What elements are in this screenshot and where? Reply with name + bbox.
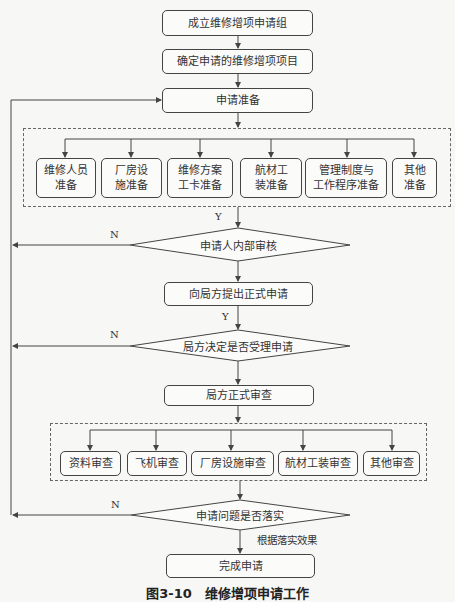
yes-label: Y xyxy=(222,311,229,322)
prep-item-management-procedures: 管理制度与 工作程序准备 xyxy=(305,158,387,198)
step-label: 局方正式审查 xyxy=(206,388,272,403)
step-label: 完成申请 xyxy=(219,559,263,574)
review-item-other: 其他审查 xyxy=(363,451,420,476)
no-label: N xyxy=(110,229,119,240)
prep-item-maintenance-plan: 维修方案 工卡准备 xyxy=(167,158,233,198)
review-item-materials-tools: 航材工装审查 xyxy=(278,451,358,476)
no-label: N xyxy=(110,329,119,340)
step-complete: 完成申请 xyxy=(166,554,315,578)
yes-label: Y xyxy=(215,211,222,222)
review-item-aircraft: 飞机审查 xyxy=(127,451,187,476)
step-label: 申请准备 xyxy=(216,93,260,108)
by-result-note: 根据落实效果 xyxy=(257,532,317,547)
step-label: 成立维修增项申请组 xyxy=(188,16,287,31)
prep-item-other: 其他 准备 xyxy=(392,158,437,198)
step-label: 向局方提出正式申请 xyxy=(189,287,288,302)
step-submit-formal: 向局方提出正式申请 xyxy=(164,282,313,306)
decision-issues-resolved: 申请问题是否落实 xyxy=(196,507,284,523)
prep-item-facility: 厂房设 施准备 xyxy=(101,158,162,198)
step-form-group: 成立维修增项申请组 xyxy=(162,10,313,36)
step-define-items: 确定申请的维修增项项目 xyxy=(162,49,313,74)
figure-caption: 图3-10 维修增项申请工作 xyxy=(0,583,455,602)
step-authority-review: 局方正式审查 xyxy=(164,385,314,406)
prep-item-materials-tools: 航材工 装准备 xyxy=(240,158,302,198)
prep-item-personnel: 维修人员 准备 xyxy=(36,158,96,198)
step-label: 确定申请的维修增项项目 xyxy=(177,54,298,69)
decision-internal-audit: 申请人内部审核 xyxy=(200,237,277,253)
review-item-documents: 资料审查 xyxy=(60,451,121,476)
decision-accept: 局方决定是否受理申请 xyxy=(183,338,293,354)
no-label: N xyxy=(111,499,120,510)
review-item-facility: 厂房设施审查 xyxy=(191,451,274,476)
step-prepare: 申请准备 xyxy=(162,88,313,113)
